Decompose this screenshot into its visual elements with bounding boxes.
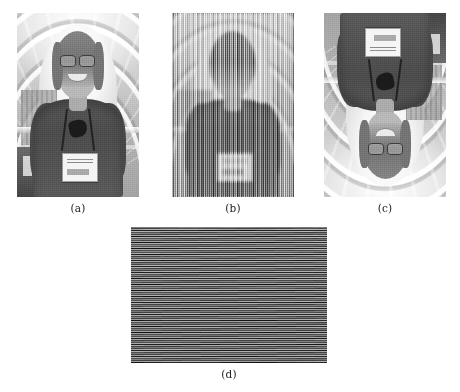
photo-scene-b: [172, 13, 294, 197]
panel-a-caption: (a): [17, 202, 139, 214]
person-figure: [131, 227, 327, 363]
name-badge: [62, 153, 98, 183]
panel-d-image: [131, 227, 327, 363]
name-badge: [217, 153, 253, 183]
photo-scene-c: [324, 13, 446, 197]
person-figure: [324, 13, 446, 197]
smile: [376, 128, 394, 136]
person-figure: [17, 13, 139, 197]
eyeglasses: [368, 146, 403, 155]
panel-b-caption: (b): [172, 202, 294, 214]
hair-right-side: [93, 42, 104, 90]
figure-root: (a) (b): [0, 0, 460, 392]
photo-scene-d-inner: [131, 227, 327, 363]
panel-a-image: [17, 13, 139, 197]
panel-c-image: [324, 13, 446, 197]
name-badge: [365, 28, 401, 58]
hair: [209, 31, 257, 86]
torso-shirt: [131, 227, 327, 363]
panel-d-caption: (d): [131, 368, 327, 380]
person-figure: [172, 13, 294, 197]
panel-c-caption: (c): [324, 202, 446, 214]
panel-b-image: [172, 13, 294, 197]
eyeglasses: [60, 55, 95, 64]
photo-scene-a: [17, 13, 139, 197]
photo-scene-d: [131, 227, 327, 363]
